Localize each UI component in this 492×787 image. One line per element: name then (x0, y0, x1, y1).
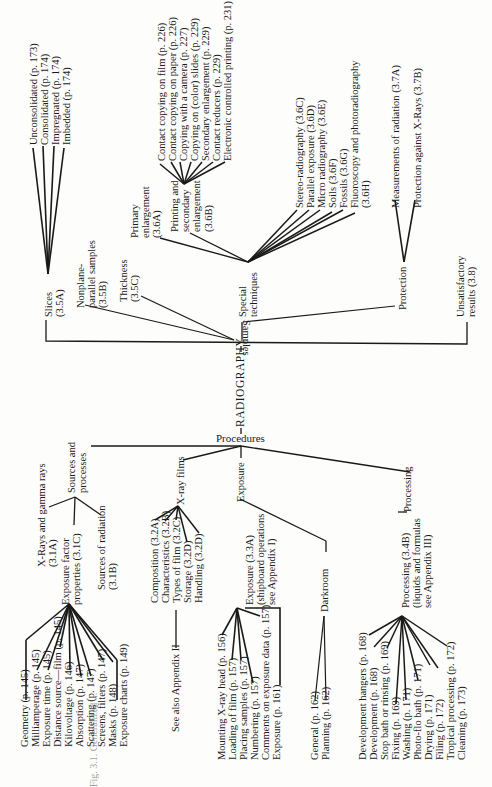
node-darkroom: Darkroom (319, 569, 330, 612)
darkroom-item: General (p. 162) (309, 691, 320, 760)
xray-film-item: Types of film (3.2C) (171, 517, 182, 603)
node-processing: Processing (402, 467, 413, 513)
printing-item: Copying on (color) slides (p. 229) (189, 18, 200, 161)
processing-item: Filing (p. 172) (434, 699, 445, 760)
figure-caption: Fig. 3.1. Generalized ... (88, 693, 99, 787)
printing-item: Contact reducers (p. 229) (211, 54, 222, 161)
processing-item: Drying (p. 171) (423, 694, 434, 760)
exposure-factor-item: Milliamperage (p. 145) (30, 649, 41, 747)
processing-item: Development hangers (p. 168) (357, 632, 368, 760)
node-protection: Protection (397, 267, 408, 310)
exposure-item: Placing samples (p. 157) (238, 656, 249, 760)
protection-item: Protection against X-Rays (3.7B) (412, 68, 423, 208)
exposure-factor-item: Exposure charts (p. 149) (118, 644, 129, 747)
darkroom-item: Planning (p. 162) (320, 687, 331, 760)
node-xray-films: X-ray films (175, 456, 186, 505)
slice-item: Impregnated (p. 174) (50, 56, 61, 145)
exposure-factor-item: Kilovoltage (p. 146) (63, 662, 74, 747)
processing-item: Stop bath or rinsing (p. 169) (379, 641, 390, 760)
xray-film-item: Handling (3.2D) (193, 534, 204, 603)
special-item: Micro radiography (3.6E) (316, 100, 327, 208)
slice-item: Consolidated (p. 174) (39, 54, 50, 145)
exposure-factor-item: Geometry (p. 145) (19, 669, 30, 747)
processing-item: Photo-flo bath (p. 171) (412, 664, 423, 760)
node-printing-secondary: Printing and secondary enlargement (3.6B… (169, 180, 214, 232)
slice-item: Unconsolidated (p. 173) (28, 43, 39, 145)
processing-item: Washing (p. 171) (401, 688, 412, 760)
node-sources-processes: Sources and processes (66, 442, 88, 493)
node-samples: Samples (241, 320, 252, 356)
node-sources-radiation: Sources of radiation (3.1B) (96, 505, 118, 590)
node-procedures: Procedures (216, 432, 265, 444)
node-nonplane-samples: Nonplane- parallel samples (3.5B) (75, 240, 109, 308)
xray-film-item: Composition (3.2A) (149, 518, 160, 603)
xray-film-item: Storage (3.2D) (182, 541, 193, 603)
exposure-factor-item: Exposure time (p. 145) (41, 650, 52, 747)
xray-film-item: Characteristics (3.2B) (160, 511, 171, 603)
exposure-item: Loading of film (p. 157) (227, 658, 238, 760)
printing-item: Contact copying on paper (p. 226) (167, 17, 178, 161)
node-exposure-3-3a: Exposure (3.3A) (shipboard operations se… (244, 514, 278, 605)
processing-item: Fixing (p. 169) (390, 697, 401, 760)
exposure-factor-item: Masks (p. 148) (107, 684, 118, 747)
exposure-factor-item: Absorption (p. 147) (74, 664, 85, 747)
node-processing-3-4b: Processing (3.4B) (liquids and formulas … (400, 518, 434, 608)
node-primary-enlargement: Primary enlargement (3.6A) (129, 186, 163, 238)
node-thickness: Thickness (3.5C) (118, 259, 140, 302)
processing-item: Development (p. 168) (368, 668, 379, 760)
printing-item: Copying with a camera (p. 227) (178, 27, 189, 161)
node-exposure-factor: Exposure factor properties (3.1C) (60, 533, 82, 605)
special-item: Parallel exposure (3.6D) (305, 105, 316, 208)
node-slices: Slices (3.5A) (43, 289, 65, 317)
exposure-factor-item: Distance source—film (p. 145) (52, 616, 63, 747)
special-item: Fossils (3.6G) (338, 148, 349, 208)
see-also-appendix-ii: See also Appendix II (170, 644, 181, 732)
processing-item: Tropical processing (p. 172) (445, 641, 456, 760)
processing-item: Cleaning (p. 173) (456, 686, 467, 760)
node-special-techniques: Special techniques (237, 272, 259, 317)
special-item: Fluoroscopy and photoradiography (3.6H) (349, 60, 371, 208)
exposure-item: Mounting X-ray head (p. 156) (216, 633, 227, 760)
special-item: Soils (3.6F) (327, 158, 338, 208)
node-xrays-gamma: X-Rays and gamma rays (3.1A) (36, 463, 58, 567)
printing-item: Electronic controlled printing (p. 231) (222, 1, 233, 161)
printing-item: Secondary enlargement (p. 229) (200, 26, 211, 161)
printing-item: Contact copying on film (p. 226) (156, 23, 167, 161)
node-exposure: Exposure (235, 462, 246, 502)
exposure-item: Numbering (p. 157) (249, 676, 260, 760)
special-item: Stereo-radiography (3.6C) (294, 97, 305, 208)
exposure-item: Exposure (p. 161) (271, 684, 282, 760)
node-unsatisfactory-results: Unsatisfactory results (3.8) (455, 256, 477, 317)
exposure-item: Comments on exposure data (p. 157) (260, 605, 271, 760)
slice-item: Imbedded (p. 174) (61, 67, 72, 145)
protection-item: Measurements of radiation (3.7A) (390, 65, 401, 208)
